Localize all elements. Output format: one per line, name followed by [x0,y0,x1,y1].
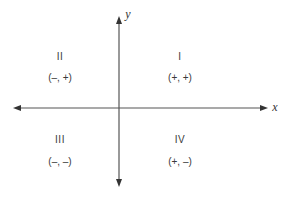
quadrant-iii-signs: (–, –) [48,156,71,167]
x-axis-right-arrow-icon [260,105,268,111]
x-axis-label: x [272,100,277,115]
quadrant-i-numeral: I [178,51,181,62]
y-axis-up-arrow-icon [116,16,122,24]
x-axis-left-arrow-icon [13,105,21,111]
quadrant-ii-numeral: II [57,51,64,62]
quadrant-iii-numeral: III [55,134,65,145]
quadrant-i-signs: (+, +) [168,72,192,83]
coordinate-plane [0,0,282,197]
y-axis-label: y [125,7,130,22]
quadrant-iv-numeral: IV [175,134,185,145]
quadrant-ii-signs: (–, +) [48,72,72,83]
quadrant-iv-signs: (+, –) [168,156,192,167]
y-axis-down-arrow-icon [116,179,122,187]
